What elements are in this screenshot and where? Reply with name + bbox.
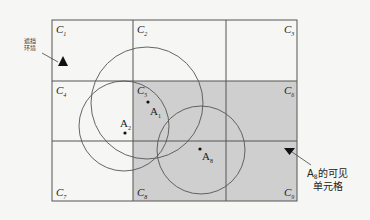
cell-label-c3: C3 <box>284 23 294 37</box>
visibility-grid-diagram: C1 C2 C3 C4 C5 C6 C7 C8 C9 A1 A2 A8 遮挡 环… <box>0 0 370 220</box>
cell-label-c7: C7 <box>56 186 67 200</box>
point-a1-dot <box>146 100 149 103</box>
cell-label-c4: C4 <box>56 84 66 98</box>
occlusion-arrow-line <box>42 53 58 62</box>
visible-label-line2: 单元格 <box>313 180 343 192</box>
occlusion-label-line2: 环境 <box>24 44 36 52</box>
occlusion-annotation: 遮挡 环境 <box>24 37 68 66</box>
cell-label-c2: C2 <box>137 23 147 37</box>
occlusion-triangle-icon <box>58 56 68 66</box>
point-a2-dot <box>123 131 126 134</box>
cell-label-c1: C1 <box>56 23 66 37</box>
visible-label-line1: A8的可见 <box>307 167 348 180</box>
point-a2-label: A2 <box>120 117 131 131</box>
